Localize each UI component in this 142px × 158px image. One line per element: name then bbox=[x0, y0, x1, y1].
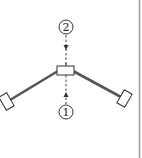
mechanism-diagram: 2 1 bbox=[0, 0, 142, 158]
left-arm bbox=[10, 71, 58, 100]
right-end-block bbox=[117, 90, 132, 107]
arrow-up-icon bbox=[64, 92, 69, 97]
left-end-block bbox=[0, 93, 14, 110]
label-2: 2 bbox=[63, 21, 70, 34]
central-block bbox=[57, 66, 74, 75]
arrow-down-icon bbox=[64, 45, 69, 50]
label-1: 1 bbox=[63, 106, 70, 119]
right-arm bbox=[73, 71, 121, 97]
